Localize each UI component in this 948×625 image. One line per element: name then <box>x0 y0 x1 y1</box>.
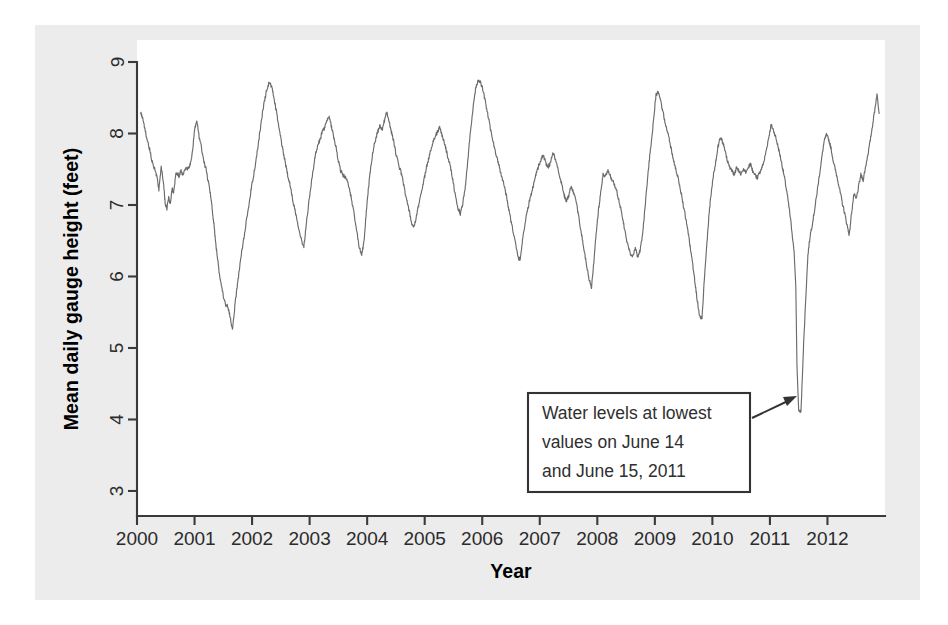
x-axis-ticks <box>137 516 827 525</box>
annotation-line-2: values on June 14 <box>542 432 684 452</box>
x-tick-label: 2003 <box>288 528 330 549</box>
line-chart: 3456789 20002001200220032004200520062007… <box>0 0 948 625</box>
y-axis-tick-labels: 3456789 <box>107 57 128 497</box>
x-tick-label: 2006 <box>461 528 503 549</box>
x-tick-label: 2012 <box>806 528 848 549</box>
y-tick-label: 6 <box>107 271 128 282</box>
gauge-height-series-line <box>140 80 879 412</box>
y-tick-label: 8 <box>107 128 128 139</box>
y-axis-ticks <box>128 62 137 491</box>
y-tick-label: 9 <box>107 57 128 68</box>
y-tick-label: 4 <box>107 414 128 425</box>
annotation-arrow <box>752 400 790 418</box>
y-tick-label: 5 <box>107 343 128 354</box>
x-tick-label: 2008 <box>576 528 618 549</box>
lowest-values-annotation: Water levels at lowest values on June 14… <box>528 393 797 492</box>
annotation-line-1: Water levels at lowest <box>542 403 712 423</box>
x-tick-label: 2004 <box>346 528 389 549</box>
x-tick-label: 2011 <box>749 528 790 549</box>
x-axis-title: Year <box>490 560 532 582</box>
x-tick-label: 2009 <box>634 528 676 549</box>
x-tick-label: 2002 <box>231 528 273 549</box>
x-tick-label: 2005 <box>404 528 446 549</box>
figure-root: 3456789 20002001200220032004200520062007… <box>0 0 948 625</box>
x-tick-label: 2010 <box>691 528 733 549</box>
y-tick-label: 7 <box>107 200 128 211</box>
y-tick-label: 3 <box>107 486 128 497</box>
x-tick-label: 2001 <box>173 528 215 549</box>
y-axis-title: Mean daily gauge height (feet) <box>60 148 82 431</box>
annotation-line-3: and June 15, 2011 <box>542 461 686 481</box>
x-tick-label: 2007 <box>519 528 561 549</box>
x-axis-tick-labels: 2000200120022003200420052006200720082009… <box>116 528 849 549</box>
annotation-arrow-head <box>783 396 797 406</box>
x-tick-label: 2000 <box>116 528 158 549</box>
